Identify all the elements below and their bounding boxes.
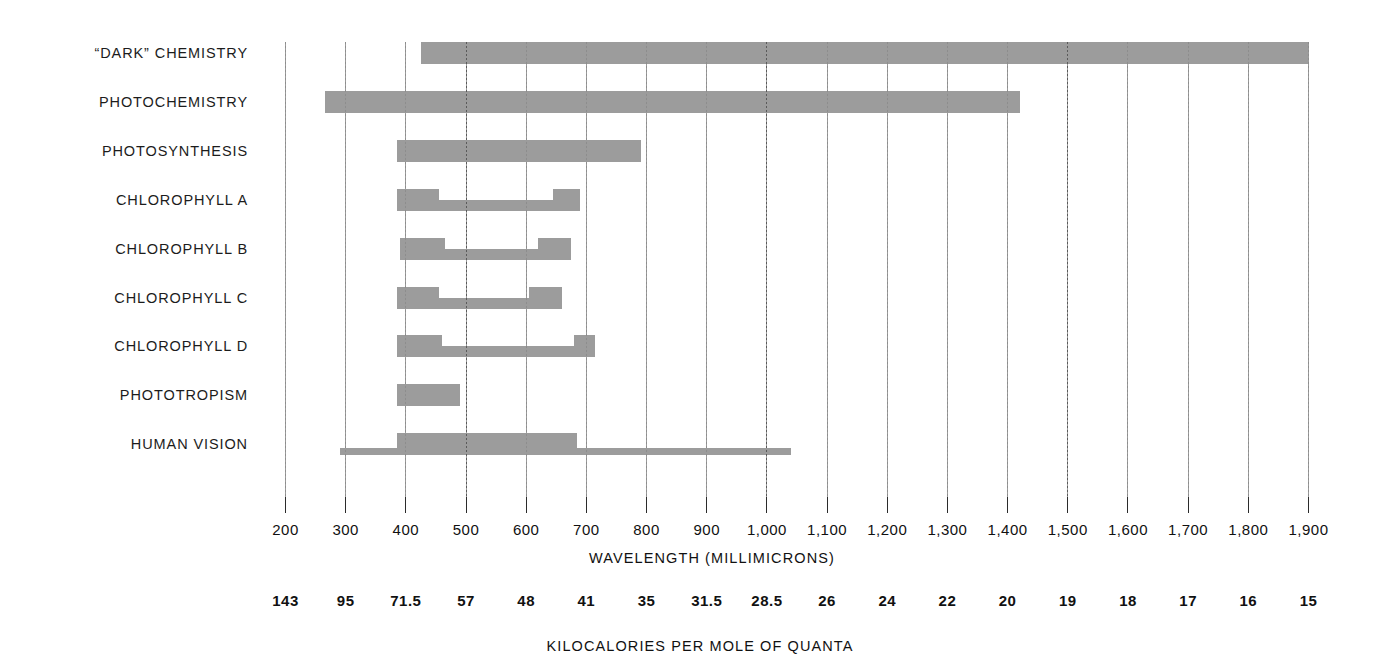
secondary-tick-label-13: 19 (1059, 592, 1077, 609)
axis-tick-mark (345, 497, 346, 513)
x-tick-label-300: 300 (332, 521, 359, 538)
axis-tick-mark (1007, 497, 1008, 513)
bar-segment (340, 448, 397, 455)
bar-segment (439, 200, 553, 211)
axis-tick-mark (466, 497, 467, 513)
secondary-tick-label-8: 28.5 (751, 592, 782, 609)
secondary-tick-label-5: 41 (578, 592, 596, 609)
x-tick-label-1100: 1,100 (807, 521, 847, 538)
gridline (766, 42, 767, 497)
bar-segment (325, 91, 1020, 113)
x-tick-label-800: 800 (633, 521, 660, 538)
gridline (1188, 42, 1189, 497)
bar-segment (397, 433, 578, 455)
bar-segment (397, 189, 439, 211)
secondary-tick-label-6: 35 (638, 592, 656, 609)
axis-tick-mark (586, 497, 587, 513)
x-tick-label-1500: 1,500 (1048, 521, 1088, 538)
bar-segment (529, 287, 562, 309)
secondary-tick-label-7: 31.5 (691, 592, 722, 609)
axis-tick-mark (766, 497, 767, 513)
gridline (1248, 42, 1249, 497)
gridline (706, 42, 707, 497)
gridline (1007, 42, 1008, 497)
secondary-tick-label-16: 16 (1239, 592, 1257, 609)
secondary-tick-label-0: 143 (272, 592, 299, 609)
gridline (586, 42, 587, 497)
bar-segment (397, 335, 442, 357)
bar-segment (439, 298, 529, 309)
chart-root: “DARK” CHEMISTRYPHOTOCHEMISTRYPHOTOSYNTH… (0, 0, 1378, 670)
x-tick-label-1900: 1,900 (1288, 521, 1328, 538)
bar-segment (538, 238, 571, 260)
x-tick-label-1300: 1,300 (927, 521, 967, 538)
axis-tick-mark (1067, 497, 1068, 513)
axis-tick-mark (646, 497, 647, 513)
x-tick-label-500: 500 (453, 521, 480, 538)
secondary-tick-label-14: 18 (1119, 592, 1137, 609)
axis-tick-mark (285, 497, 286, 513)
row-label-5: CHLOROPHYLL B (18, 241, 248, 257)
bar-segment (442, 346, 574, 357)
axis-tick-mark (1188, 497, 1189, 513)
x-tick-label-1700: 1,700 (1168, 521, 1208, 538)
bar-segment (421, 42, 1309, 64)
secondary-tick-label-4: 48 (517, 592, 535, 609)
secondary-tick-label-15: 17 (1179, 592, 1197, 609)
x-tick-label-1800: 1,800 (1228, 521, 1268, 538)
axis-tick-mark (1308, 497, 1309, 513)
x-tick-label-400: 400 (393, 521, 420, 538)
x-tick-label-1400: 1,400 (988, 521, 1028, 538)
secondary-axis-title: KILOCALORIES PER MOLE OF QUANTA (547, 638, 854, 654)
x-tick-label-900: 900 (693, 521, 720, 538)
gridline (466, 42, 467, 497)
axis-tick-mark (526, 497, 527, 513)
secondary-tick-label-9: 26 (818, 592, 836, 609)
gridline (405, 42, 406, 497)
row-label-6: CHLOROPHYLL C (18, 290, 248, 306)
secondary-tick-label-17: 15 (1300, 592, 1318, 609)
gridline (285, 42, 286, 497)
gridline (646, 42, 647, 497)
secondary-tick-label-1: 95 (337, 592, 355, 609)
gridline (526, 42, 527, 497)
row-label-9: HUMAN VISION (18, 436, 248, 452)
axis-tick-mark (706, 497, 707, 513)
x-tick-label-1600: 1,600 (1108, 521, 1148, 538)
axis-tick-mark (1127, 497, 1128, 513)
secondary-tick-label-11: 22 (939, 592, 957, 609)
bar-segment (400, 238, 445, 260)
bar-segment (553, 189, 580, 211)
row-label-2: PHOTOCHEMISTRY (18, 94, 248, 110)
secondary-tick-label-10: 24 (878, 592, 896, 609)
x-tick-label-1000: 1,000 (747, 521, 787, 538)
row-label-1: “DARK” CHEMISTRY (18, 45, 248, 61)
secondary-tick-label-3: 57 (457, 592, 475, 609)
bar-segment (397, 140, 641, 162)
axis-tick-mark (947, 497, 948, 513)
axis-tick-mark (405, 497, 406, 513)
gridline (345, 42, 346, 497)
secondary-tick-label-12: 20 (999, 592, 1017, 609)
secondary-tick-label-2: 71.5 (390, 592, 421, 609)
gridline (827, 42, 828, 497)
x-tick-label-700: 700 (573, 521, 600, 538)
gridline (887, 42, 888, 497)
x-tick-label-1200: 1,200 (867, 521, 907, 538)
axis-tick-mark (887, 497, 888, 513)
axis-tick-mark (827, 497, 828, 513)
gridline (1067, 42, 1068, 497)
gridline (1127, 42, 1128, 497)
x-axis-title: WAVELENGTH (MILLIMICRONS) (589, 550, 835, 566)
row-label-3: PHOTOSYNTHESIS (18, 143, 248, 159)
bar-segment (577, 448, 791, 455)
gridline (1308, 42, 1309, 497)
bar-segment (397, 287, 439, 309)
bar-segment (445, 249, 538, 260)
row-label-7: CHLOROPHYLL D (18, 338, 248, 354)
x-tick-label-200: 200 (272, 521, 299, 538)
x-tick-label-600: 600 (513, 521, 540, 538)
bar-segment (574, 335, 595, 357)
row-label-4: CHLOROPHYLL A (18, 192, 248, 208)
row-label-8: PHOTOTROPISM (18, 387, 248, 403)
